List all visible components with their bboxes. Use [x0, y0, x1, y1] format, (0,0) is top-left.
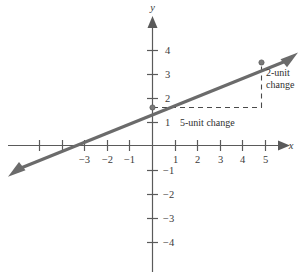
x-tick-label-5: 5 [263, 154, 268, 165]
x-tick-label-neg3: −3 [79, 154, 90, 165]
x-axis [8, 141, 290, 151]
y-tick-labels: 4 3 2 1 −1 −2 −3 −4 [163, 45, 175, 248]
line-left-arrow-icon [8, 162, 26, 177]
run-annotation: 5-unit change [180, 117, 235, 129]
x-tick-labels: −3 −2 −1 1 2 3 4 5 [79, 154, 268, 165]
x-tick-label-3: 3 [218, 154, 223, 165]
rise-annotation-line1: 2-unit [266, 67, 294, 79]
line-right-arrow-icon [281, 53, 299, 68]
y-axis-arrow-icon [148, 16, 158, 28]
y-tick-label-neg4: −4 [163, 237, 175, 248]
y-tick-label-3: 3 [165, 69, 170, 80]
y-axis [148, 16, 158, 272]
y-tick-label-2: 2 [165, 93, 170, 104]
y-axis-title: y [149, 2, 155, 13]
y-tick-label-neg3: −3 [163, 213, 174, 224]
y-tick-label-4: 4 [165, 45, 171, 56]
line-segment [16, 59, 291, 170]
x-tick-label-2: 2 [195, 154, 200, 165]
point-y-intercept [150, 105, 155, 110]
x-tick-label-neg1: −1 [124, 154, 135, 165]
rise-annotation: 2-unit change [266, 67, 294, 91]
y-tick-label-neg1: −1 [163, 165, 174, 176]
graph-figure: −3 −2 −1 1 2 3 4 5 4 3 2 1 −1 −2 −3 −4 x… [0, 0, 306, 280]
point-on-line [259, 60, 264, 65]
x-tick-label-1: 1 [173, 154, 178, 165]
y-tick-label-1: 1 [165, 117, 170, 128]
y-tick-label-neg2: −2 [163, 189, 174, 200]
x-tick-label-4: 4 [240, 154, 246, 165]
x-axis-title: x [288, 140, 294, 151]
x-tick-label-neg2: −2 [102, 154, 113, 165]
coordinate-plane: −3 −2 −1 1 2 3 4 5 4 3 2 1 −1 −2 −3 −4 x… [0, 0, 306, 280]
rise-annotation-line2: change [266, 79, 294, 91]
